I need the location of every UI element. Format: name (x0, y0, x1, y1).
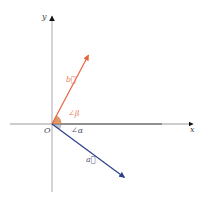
vector-b-label: b⃗ (66, 76, 76, 84)
y-axis-label: y (42, 13, 47, 21)
diagram-canvas (0, 0, 205, 205)
angle-alpha-label: ∠α (71, 127, 83, 135)
angle-marker (52, 116, 62, 125)
vector-a-label: a⃗ (86, 156, 96, 164)
origin-label: O (44, 127, 51, 135)
x-axis-label: x (190, 126, 195, 134)
vector-a-arrow (52, 124, 125, 178)
angle-beta-label: ∠β (68, 110, 79, 118)
